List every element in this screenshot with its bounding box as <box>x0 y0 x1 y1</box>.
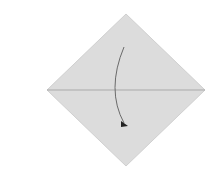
origami-diagram <box>0 0 222 169</box>
